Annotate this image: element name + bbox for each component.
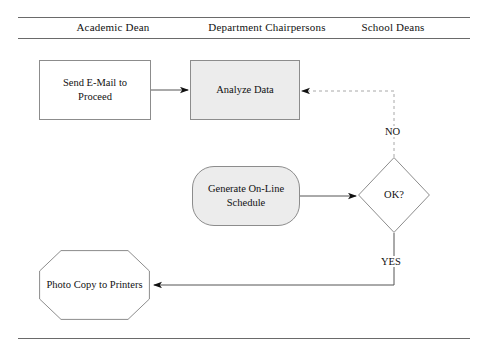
node-photo-copy-label: Photo Copy to Printers — [41, 278, 149, 292]
node-photo-copy[interactable]: Photo Copy to Printers — [39, 250, 150, 320]
node-generate-schedule[interactable]: Generate On-Line Schedule — [192, 166, 300, 226]
edge-decision-no-to-analyze — [302, 91, 394, 157]
edge-decision-yes-to-photocopy — [154, 233, 394, 285]
lane-header-school-deans: School Deans — [338, 21, 448, 33]
edge-label-no: NO — [383, 126, 402, 137]
node-decision-ok[interactable]: OK? — [358, 157, 430, 233]
node-send-email[interactable]: Send E-Mail to Proceed — [39, 60, 151, 120]
node-send-email-label: Send E-Mail to Proceed — [40, 76, 150, 104]
node-analyze-data-label: Analyze Data — [210, 83, 279, 97]
lane-header-department-chairpersons: Department Chairpersons — [182, 21, 352, 33]
edge-label-yes: YES — [379, 256, 403, 267]
flowchart-page: Academic Dean Department Chairpersons Sc… — [0, 0, 490, 354]
node-generate-schedule-label: Generate On-Line Schedule — [193, 182, 299, 210]
node-analyze-data[interactable]: Analyze Data — [190, 60, 300, 120]
lane-header-academic-dean: Academic Dean — [43, 21, 183, 33]
header-rule-top — [18, 17, 470, 18]
footer-rule — [18, 338, 470, 339]
node-decision-ok-label: OK? — [378, 188, 410, 202]
header-rule-bottom — [18, 38, 470, 39]
